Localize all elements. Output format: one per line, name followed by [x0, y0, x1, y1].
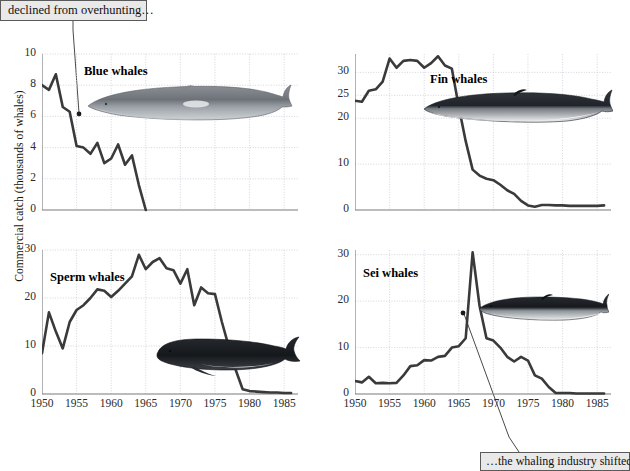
- x-tick-label: 1965: [441, 397, 477, 409]
- panel-fin-whales: Fin whales 010202530: [355, 52, 613, 212]
- x-tick-label: 1985: [579, 397, 615, 409]
- panel-title-fin-whales: Fin whales: [430, 72, 487, 87]
- x-tick-label: 1980: [545, 397, 581, 409]
- x-tick-label: 1960: [93, 397, 129, 409]
- y-tick-label: 30: [8, 242, 36, 254]
- x-tick-label: 1955: [372, 397, 408, 409]
- x-tick-label: 1970: [162, 397, 198, 409]
- y-tick-label: 0: [8, 202, 36, 214]
- y-tick-label: 8: [8, 77, 36, 89]
- y-tick-label: 10: [8, 338, 36, 350]
- panel-title-sei-whales: Sei whales: [363, 266, 418, 281]
- y-tick-label: 30: [321, 64, 349, 76]
- y-tick-label: 20: [321, 293, 349, 305]
- y-tick-label: 25: [321, 87, 349, 99]
- x-tick-label: 1960: [406, 397, 442, 409]
- blue-whales-plot: [42, 52, 300, 212]
- x-tick-label: 1985: [266, 397, 302, 409]
- y-tick-label: 4: [8, 140, 36, 152]
- y-tick-label: 20: [321, 110, 349, 122]
- callout-declined-from-overhunting: declined from overhunting…: [0, 0, 147, 21]
- y-tick-label: 20: [8, 290, 36, 302]
- x-tick-label: 1970: [475, 397, 511, 409]
- x-tick-label: 1955: [59, 397, 95, 409]
- x-tick-label: 1975: [197, 397, 233, 409]
- y-tick-label: 2: [8, 171, 36, 183]
- y-axis-label: Commercial catch (thousands of whales): [13, 71, 25, 301]
- y-tick-label: 30: [321, 247, 349, 259]
- whale-catch-figure: declined from overhunting… …the whaling …: [0, 0, 630, 471]
- y-tick-label: 10: [321, 156, 349, 168]
- x-tick-label: 1965: [128, 397, 164, 409]
- y-tick-label: 0: [321, 202, 349, 214]
- panel-sei-whales: Sei whales 01020301950195519601965197019…: [355, 248, 613, 396]
- callout-whaling-industry-shifted: …the whaling industry shifted: [480, 452, 630, 471]
- y-tick-label: 6: [8, 108, 36, 120]
- panel-blue-whales: Blue whales 0246810: [42, 52, 300, 212]
- y-tick-label: 10: [8, 46, 36, 58]
- panel-title-sperm-whales: Sperm whales: [50, 270, 125, 285]
- panel-title-blue-whales: Blue whales: [84, 64, 148, 79]
- panel-sperm-whales: Sperm whales 010203019501955196019651970…: [42, 248, 300, 396]
- x-tick-label: 1975: [510, 397, 546, 409]
- x-tick-label: 1950: [24, 397, 60, 409]
- y-tick-label: 10: [321, 340, 349, 352]
- x-tick-label: 1950: [337, 397, 373, 409]
- x-tick-label: 1980: [232, 397, 268, 409]
